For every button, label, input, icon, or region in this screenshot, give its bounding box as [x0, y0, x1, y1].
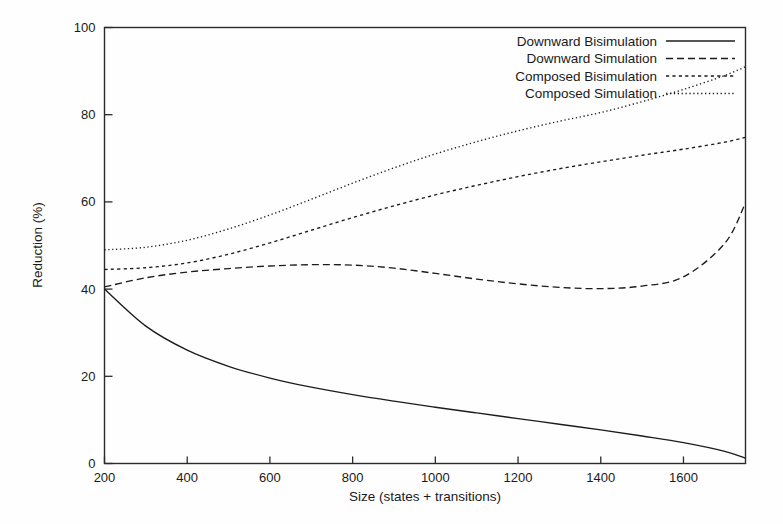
- x-tick-label: 400: [176, 470, 198, 485]
- y-tick-label: 40: [81, 282, 95, 297]
- legend-label-1: Downward Simulation: [526, 51, 657, 66]
- y-tick-label: 80: [81, 107, 95, 122]
- series-line-2: [105, 137, 746, 269]
- data-series-group: [105, 67, 746, 459]
- x-tick-label: 1200: [504, 470, 533, 485]
- legend-label-0: Downward Bisimulation: [517, 34, 657, 49]
- x-tick-label: 1000: [421, 470, 450, 485]
- y-axis-title: Reduction (%): [30, 202, 45, 288]
- series-line-0: [105, 289, 746, 458]
- legend-label-3: Composed Simulation: [525, 86, 657, 101]
- x-tick-label: 200: [94, 470, 116, 485]
- x-tick-label: 1400: [586, 470, 615, 485]
- x-axis-ticks: 2004006008001000120014001600: [94, 457, 698, 485]
- y-axis-ticks: 020406080100: [74, 20, 113, 471]
- y-tick-label: 20: [81, 369, 95, 384]
- series-line-1: [105, 203, 746, 289]
- y-tick-label: 60: [81, 194, 95, 209]
- x-tick-label: 600: [259, 470, 281, 485]
- chart-figure: 020406080100 200400600800100012001400160…: [0, 0, 783, 524]
- x-axis-title: Size (states + transitions): [349, 489, 501, 504]
- chart-legend: Downward BisimulationDownward Simulation…: [515, 34, 735, 102]
- line-chart: 020406080100 200400600800100012001400160…: [0, 0, 783, 524]
- y-tick-label: 100: [74, 20, 96, 35]
- x-tick-label: 1600: [669, 470, 698, 485]
- x-tick-label: 800: [342, 470, 364, 485]
- legend-label-2: Composed Bisimulation: [515, 69, 657, 84]
